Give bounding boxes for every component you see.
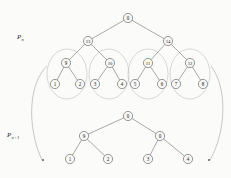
tree-node[interactable]: 3 [143,154,152,163]
tree-node[interactable]: 13 [83,36,92,45]
tree-edge [57,67,64,80]
tree-edge [91,44,106,59]
tree-edge [69,44,84,59]
node-circle [198,79,207,88]
tree-edge [112,67,119,80]
tree-edge [88,118,124,134]
tree-edge [72,140,81,155]
node-circle [79,131,88,140]
right-contraction-arc [210,66,223,160]
tree-node[interactable]: 1 [50,79,59,88]
tree-edge [137,67,145,80]
node-circle [50,79,59,88]
node-circle [143,58,152,67]
lower-tree-edge-layer [72,118,184,156]
node-circle [183,154,192,163]
tree-node[interactable]: 7 [171,79,180,88]
tree-node[interactable]: 8 [198,79,207,88]
tree-edge [132,118,156,133]
tree-node[interactable]: 2 [103,154,112,163]
figure-container: Pn Pn+1 01314910111212345678 0901234 [0,0,231,178]
leaf-cluster-ellipse [128,49,168,99]
tree-node[interactable]: 9 [61,58,70,67]
node-circle [90,79,99,88]
tree-edge [98,67,108,81]
node-circle [171,79,180,88]
tree-node[interactable]: 0 [155,131,164,140]
node-circle [185,58,194,67]
tree-edge [151,67,160,80]
tree-edge [164,139,185,156]
leaf-cluster-ellipse [47,49,87,99]
node-circle [123,111,132,120]
node-circle [61,58,70,67]
tree-edge [87,139,104,156]
tree-edge [171,44,186,59]
tree-node[interactable]: 5 [130,79,139,88]
tree-node[interactable]: 2 [75,79,84,88]
tree-edge [150,140,158,155]
lower-tree-node-layer: 0901234 [65,111,192,163]
tree-node[interactable]: 11 [143,58,152,67]
node-circle [157,79,166,88]
tree-node[interactable]: 0 [123,13,132,22]
node-circle [143,154,152,163]
node-circle [105,58,114,67]
tree-node[interactable]: 9 [79,131,88,140]
figure-canvas: 01314910111212345678 0901234 [0,0,231,178]
tree-node[interactable]: 1 [65,154,74,163]
tree-edge [192,67,200,80]
node-circle [130,79,139,88]
tree-edge [132,20,164,38]
leaf-cluster-ellipse [89,49,129,99]
tree-edge [92,20,124,38]
arrow-head-icon [42,159,44,161]
tree-node[interactable]: 12 [185,58,194,67]
tree-node[interactable]: 4 [117,79,126,88]
tree-edge [69,67,78,80]
node-circle [75,79,84,88]
cluster-ellipse-layer [47,49,210,99]
tree-node[interactable]: 10 [105,58,114,67]
node-circle [123,13,132,22]
node-circle [155,131,164,140]
tree-edge [179,67,188,80]
tree-node[interactable]: 14 [163,36,172,45]
left-contraction-arc [32,66,47,160]
node-circle [83,36,92,45]
node-circle [65,154,74,163]
arrow-head-icon [208,159,210,161]
node-circle [163,36,172,45]
tree-node[interactable]: 3 [90,79,99,88]
node-circle [117,79,126,88]
tree-node[interactable]: 6 [157,79,166,88]
tree-node[interactable]: 4 [183,154,192,163]
leaf-cluster-ellipse [170,49,210,99]
node-circle [103,154,112,163]
tree-node[interactable]: 0 [123,111,132,120]
